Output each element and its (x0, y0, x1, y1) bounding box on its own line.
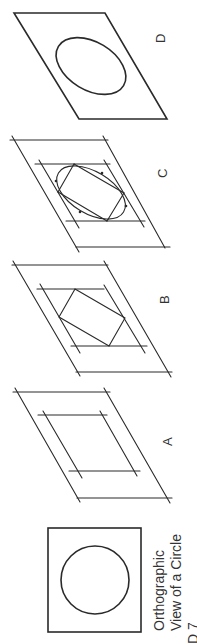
panel-c-label: C (155, 169, 170, 178)
orthographic-circle (61, 546, 129, 614)
panel-d-ellipse (46, 26, 136, 106)
isometric-circle-figure: D C B (0, 0, 197, 644)
panel-a: A (13, 388, 175, 503)
orthographic-square (48, 528, 141, 632)
panel-c: C (10, 136, 170, 252)
orthographic-caption-line2: View of a Circle (168, 534, 184, 631)
panel-d: D (14, 13, 168, 119)
panel-c-ellipse (48, 155, 135, 230)
orthographic-caption-line1: Orthographic (151, 550, 167, 631)
panel-a-label: A (160, 437, 175, 446)
panel-b-connectors (59, 289, 125, 346)
panel-b-label: B (157, 295, 172, 304)
orthographic-view: Orthographic View of a Circle (48, 528, 184, 632)
panel-d-rhombus (14, 13, 167, 119)
panel-d-label: D (153, 34, 168, 43)
cropped-fragment-text: D 7 (185, 622, 197, 644)
panel-b: B (12, 261, 172, 377)
